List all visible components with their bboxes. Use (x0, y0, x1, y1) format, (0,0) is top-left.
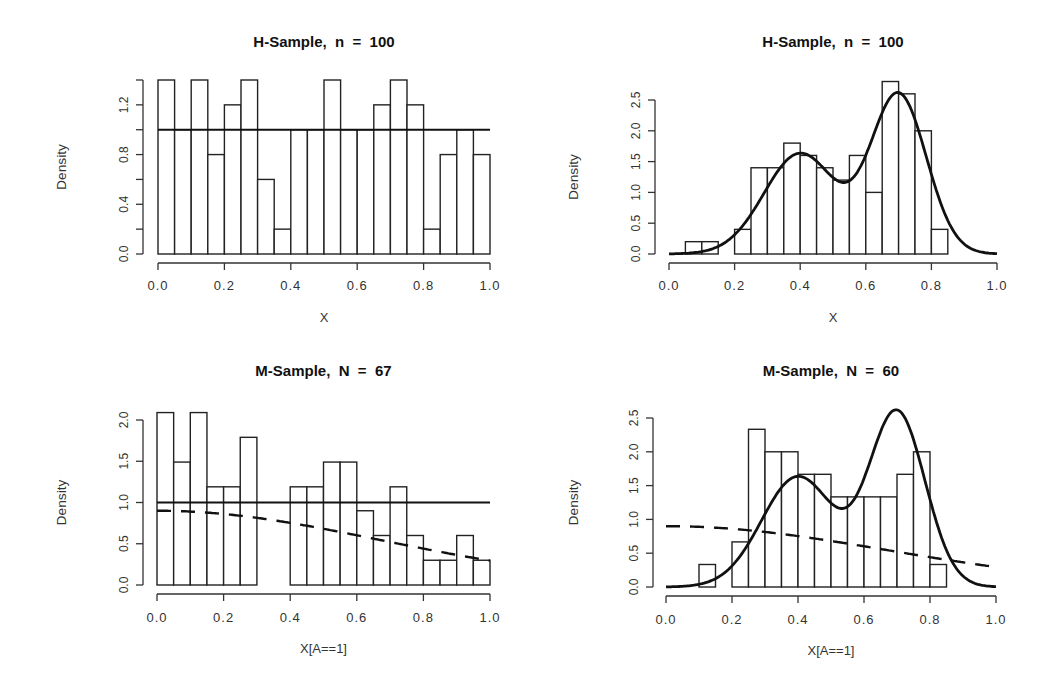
x-tick-label: 0.6 (853, 612, 874, 627)
histogram-bar (373, 536, 390, 586)
histogram-bar (424, 229, 441, 254)
histogram-bar (157, 413, 174, 585)
histogram-bar (848, 497, 865, 587)
histogram-bar (931, 229, 947, 254)
histogram-bar (341, 130, 358, 254)
x-tick-label: 0.2 (213, 610, 234, 625)
histogram-bar (817, 168, 833, 254)
histogram-bar (241, 80, 258, 254)
histogram-bar (390, 80, 407, 254)
histogram-bar (240, 437, 257, 585)
y-tick-label: 1.0 (629, 184, 643, 201)
y-tick-label: 0.4 (117, 196, 131, 213)
y-axis: 0.00.51.01.52.0 (117, 411, 143, 593)
panel-top-left: H-Sample, n = 100 0.00.40.81.2 0.00.20.4… (54, 33, 501, 325)
histogram-bar (457, 536, 474, 586)
x-tick-label: 0.2 (721, 612, 742, 627)
histogram-bar (930, 564, 947, 587)
y-axis-label: Density (566, 153, 581, 200)
panel-bottom-right: M-Sample, N = 60 0.00.51.01.52.02.5 0.00… (566, 362, 1007, 658)
x-tick-label: 0.8 (413, 278, 434, 293)
y-tick-label: 2.0 (627, 443, 641, 460)
histogram-bar (307, 130, 324, 254)
y-axis-label: Density (54, 143, 69, 190)
histogram-bar (175, 130, 192, 254)
panel-title: M-Sample, N = 67 (255, 362, 391, 379)
histogram-bar (897, 474, 914, 587)
x-axis-label: X (320, 310, 329, 325)
x-tick-label: 0.4 (280, 610, 301, 625)
y-tick-label: 1.0 (117, 494, 131, 511)
x-tick-label: 1.0 (479, 278, 500, 293)
y-axis-label: Density (54, 479, 69, 526)
y-tick-label: 0.8 (117, 146, 131, 163)
histogram-bar (899, 94, 915, 254)
y-tick-label: 1.5 (629, 153, 643, 170)
figure: H-Sample, n = 100 0.00.40.81.2 0.00.20.4… (0, 0, 1063, 688)
y-tick-label: 0.0 (629, 245, 643, 262)
y-tick-label: 0.5 (627, 545, 641, 562)
histogram-bar (340, 462, 357, 585)
histogram-bar (357, 511, 374, 585)
x-axis: 0.00.20.40.60.81.0 (655, 596, 1006, 627)
histogram-bar (440, 155, 457, 254)
x-tick-label: 1.0 (986, 278, 1007, 293)
histogram-bar (765, 452, 782, 587)
histogram-bar (208, 155, 225, 254)
x-tick-label: 0.4 (787, 612, 808, 627)
histogram-bar (174, 462, 191, 585)
histogram-bar (782, 452, 799, 587)
x-tick-label: 0.0 (147, 278, 168, 293)
y-axis: 0.00.40.81.2 (117, 80, 143, 262)
histogram-bar (407, 536, 424, 586)
histogram-bars (157, 413, 490, 585)
y-tick-label: 0.5 (117, 535, 131, 552)
panel-title: H-Sample, n = 100 (762, 33, 903, 50)
histogram-bar (324, 462, 341, 585)
histogram-bar (407, 105, 424, 254)
histogram-bar (473, 560, 490, 585)
histogram-bar (258, 179, 275, 254)
histogram-bar (374, 105, 391, 254)
y-tick-label: 0.0 (117, 576, 131, 593)
histogram-bar (749, 429, 766, 587)
y-axis: 0.00.51.01.52.02.5 (629, 91, 655, 262)
x-tick-label: 0.0 (146, 610, 167, 625)
histogram-bar (864, 497, 881, 587)
y-tick-label: 2.0 (629, 122, 643, 139)
histogram-bar (291, 130, 308, 254)
x-tick-label: 0.2 (214, 278, 235, 293)
histogram-bar (866, 192, 882, 254)
y-tick-label: 1.0 (627, 511, 641, 528)
y-tick-label: 2.5 (629, 91, 643, 108)
x-tick-label: 0.8 (921, 278, 942, 293)
y-tick-label: 2.5 (627, 409, 641, 426)
histogram-bars (685, 82, 947, 254)
panel-title: M-Sample, N = 60 (763, 362, 899, 379)
histogram-bar (798, 474, 815, 587)
x-tick-label: 0.4 (280, 278, 301, 293)
histogram-bar (357, 130, 374, 254)
histogram-bar (833, 180, 849, 254)
x-axis: 0.00.20.40.60.81.0 (146, 594, 500, 625)
x-tick-label: 0.0 (655, 612, 676, 627)
x-tick-label: 0.6 (855, 278, 876, 293)
x-tick-label: 1.0 (479, 610, 500, 625)
panel-bottom-left: M-Sample, N = 67 0.00.51.01.52.0 0.00.20… (54, 362, 501, 656)
panel-top-right: H-Sample, n = 100 0.00.51.01.52.02.5 0.0… (566, 33, 1008, 325)
x-axis: 0.00.20.40.60.81.0 (147, 263, 500, 293)
y-axis-label: Density (566, 479, 581, 526)
histogram-bar (224, 105, 241, 254)
histogram-bar (800, 155, 816, 254)
y-tick-label: 0.0 (117, 245, 131, 262)
histogram-bar (158, 80, 175, 254)
histogram-bar (423, 560, 440, 585)
x-tick-label: 0.2 (724, 278, 745, 293)
y-tick-label: 0.0 (627, 578, 641, 595)
x-axis: 0.00.20.40.60.81.0 (658, 263, 1007, 293)
histogram-bar (440, 560, 457, 585)
x-tick-label: 1.0 (985, 612, 1006, 627)
y-tick-label: 1.2 (117, 96, 131, 113)
histogram-bar (274, 229, 291, 254)
histogram-bar (190, 413, 207, 585)
